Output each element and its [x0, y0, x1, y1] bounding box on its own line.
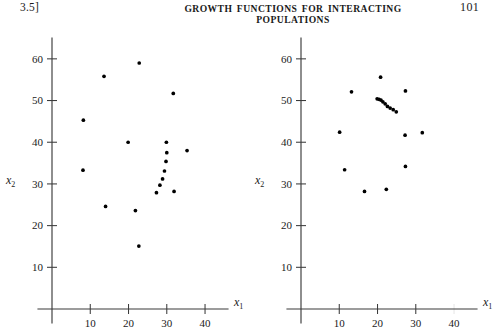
- data-point: [155, 191, 159, 195]
- data-point: [163, 169, 167, 173]
- data-point: [391, 108, 395, 112]
- data-point: [363, 190, 367, 194]
- y-axis-tick-label: 20: [281, 219, 293, 231]
- data-point: [102, 75, 106, 79]
- y-axis-tick-label: 30: [32, 178, 44, 190]
- y-axis-tick-label: 60: [32, 53, 44, 65]
- x-axis-tick-label: 40: [200, 317, 212, 329]
- y-axis-label: x2: [5, 173, 15, 189]
- data-point: [185, 149, 189, 153]
- data-point: [350, 90, 354, 94]
- x-axis-tick-label: 30: [410, 317, 422, 329]
- header-chapter-marker: 3.5]: [20, 1, 39, 13]
- data-point: [172, 190, 176, 194]
- y-axis-tick-label: 10: [32, 261, 44, 273]
- data-point: [404, 89, 408, 93]
- data-point: [165, 140, 169, 144]
- data-point: [158, 183, 162, 187]
- x-axis-label: x1: [233, 295, 243, 311]
- data-point: [104, 205, 108, 209]
- y-axis-tick-label: 60: [281, 53, 293, 65]
- y-axis-tick-label: 50: [281, 94, 293, 106]
- x-axis-tick-label: 20: [123, 317, 135, 329]
- data-point: [394, 110, 398, 114]
- page-number: 101: [460, 0, 479, 15]
- x-axis-tick-label: 30: [161, 317, 173, 329]
- x-axis-tick-label: 20: [372, 317, 384, 329]
- scatter-chart-left-canvas: 10203040506010203040x1x2: [0, 26, 248, 335]
- y-axis-tick-label: 50: [32, 94, 44, 106]
- data-point: [161, 177, 165, 181]
- scatter-chart-left: 10203040506010203040x1x2: [0, 26, 248, 335]
- data-point: [164, 160, 168, 164]
- data-point: [338, 130, 342, 134]
- y-axis-tick-label: 40: [281, 136, 293, 148]
- data-point: [379, 75, 383, 79]
- data-point: [137, 61, 141, 65]
- y-axis-tick-label: 20: [32, 219, 44, 231]
- data-point: [165, 151, 169, 155]
- x-axis-tick-label: 40: [449, 317, 461, 329]
- x-axis-label: x1: [482, 295, 492, 311]
- data-point: [81, 168, 85, 172]
- y-axis-label: x2: [254, 173, 264, 189]
- data-point: [171, 92, 175, 96]
- data-point: [384, 187, 388, 191]
- data-point: [343, 168, 347, 172]
- y-axis-tick-label: 40: [32, 136, 44, 148]
- y-axis-tick-label: 10: [281, 261, 293, 273]
- page-title: GROWTH FUNCTIONS FOR INTERACTING POPULAT…: [150, 3, 436, 25]
- data-point: [134, 209, 138, 213]
- data-point: [404, 165, 408, 169]
- data-point: [82, 118, 86, 122]
- data-point: [403, 133, 407, 137]
- page-header: 3.5] GROWTH FUNCTIONS FOR INTERACTING PO…: [0, 0, 497, 22]
- scatter-chart-right-canvas: 10203040506010203040x1x2: [249, 26, 497, 335]
- x-axis-tick-label: 10: [334, 317, 346, 329]
- data-point: [420, 131, 424, 135]
- scatter-chart-right: 10203040506010203040x1x2: [249, 26, 497, 335]
- data-point: [137, 244, 141, 248]
- x-axis-tick-label: 10: [85, 317, 97, 329]
- y-axis-tick-label: 30: [281, 178, 293, 190]
- data-point: [126, 140, 130, 144]
